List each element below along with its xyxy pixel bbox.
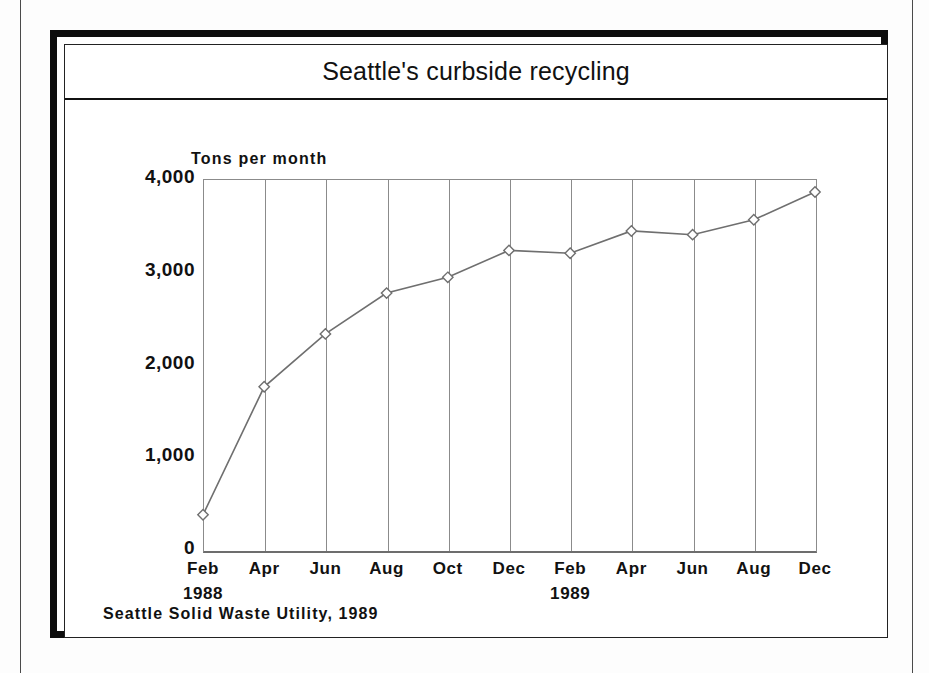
plot-container: Tons per month 4,0003,0002,0001,0000 Feb… [65, 100, 889, 638]
x-axis-tick-label: Aug [724, 559, 784, 579]
x-axis-tick-label: Oct [418, 559, 478, 579]
data-point-marker [749, 215, 759, 225]
title-band: Seattle's curbside recycling [65, 45, 887, 100]
page-rule-left [20, 0, 21, 673]
data-point-marker [198, 510, 208, 520]
chart-title: Seattle's curbside recycling [322, 57, 630, 86]
x-axis-tick-label: Dec [785, 559, 845, 579]
data-point-marker [626, 226, 636, 236]
x-axis-year-label: 1988 [173, 584, 233, 604]
series-line-tons-per-month [203, 192, 815, 515]
x-axis-tick-label: Feb [173, 559, 233, 579]
figure-inner-border: Seattle's curbside recycling Tons per mo… [64, 44, 888, 638]
data-point-marker [565, 248, 575, 258]
x-axis-tick-label: Apr [601, 559, 661, 579]
data-point-marker [504, 245, 514, 255]
data-point-marker [381, 288, 391, 298]
page-rule-right [912, 0, 913, 673]
data-point-marker [810, 187, 820, 197]
page-background: Seattle's curbside recycling Tons per mo… [0, 0, 929, 673]
series-markers [198, 187, 820, 520]
x-axis-tick-label: Dec [479, 559, 539, 579]
figure-frame: Seattle's curbside recycling Tons per mo… [50, 30, 888, 638]
x-axis-tick-label: Apr [234, 559, 294, 579]
source-note: Seattle Solid Waste Utility, 1989 [103, 605, 379, 623]
data-point-marker [687, 229, 697, 239]
x-axis-year-label: 1989 [540, 584, 600, 604]
x-axis-tick-label: Feb [540, 559, 600, 579]
x-axis-tick-label: Jun [295, 559, 355, 579]
x-axis-tick-label: Aug [357, 559, 417, 579]
x-axis-tick-label: Jun [663, 559, 723, 579]
data-point-marker [443, 272, 453, 282]
data-series-layer [65, 100, 889, 638]
